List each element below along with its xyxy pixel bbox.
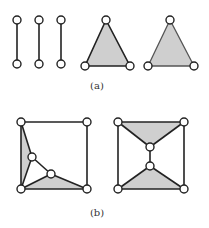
vertex: [114, 185, 122, 193]
panel-a: (a): [13, 16, 198, 91]
vertex: [146, 143, 154, 151]
vertex: [57, 16, 65, 24]
vertex: [35, 60, 43, 68]
isolated-edge-3: [57, 16, 65, 68]
panel-b: (b): [17, 118, 188, 218]
vertex: [180, 185, 188, 193]
vertex: [28, 153, 36, 161]
filled-triangle-1: [81, 16, 134, 70]
vertex: [144, 62, 152, 70]
vertex: [57, 60, 65, 68]
caption-b: (b): [90, 207, 104, 218]
vertex: [13, 16, 21, 24]
vertex: [180, 118, 188, 126]
vertex: [17, 185, 25, 193]
vertex: [81, 62, 89, 70]
vertex: [17, 118, 25, 126]
vertex: [83, 185, 91, 193]
vertex: [83, 118, 91, 126]
graph-right: [114, 118, 188, 193]
isolated-edge-1: [13, 16, 21, 68]
filled-triangle-2: [144, 16, 198, 70]
graph-left: [17, 118, 91, 193]
vertex: [102, 16, 110, 24]
caption-a: (a): [90, 80, 104, 91]
vertex: [190, 62, 198, 70]
vertex: [146, 162, 154, 170]
vertex: [126, 62, 134, 70]
vertex: [13, 60, 21, 68]
vertex: [47, 170, 55, 178]
isolated-edge-2: [35, 16, 43, 68]
vertex: [166, 16, 174, 24]
vertex: [114, 118, 122, 126]
diagram-canvas: (a): [0, 0, 209, 228]
vertex: [35, 16, 43, 24]
